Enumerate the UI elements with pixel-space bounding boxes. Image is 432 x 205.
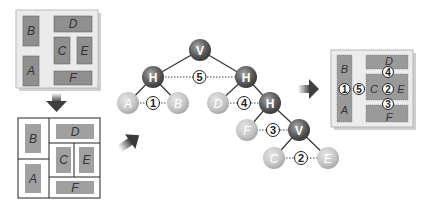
block-label: C (59, 153, 68, 167)
channel-marker-2: 2 (383, 84, 394, 95)
block-a: A (25, 164, 41, 193)
diagonal-arrow-icon (114, 128, 144, 157)
block-label: D (71, 125, 80, 139)
tree-node-f: F (236, 119, 258, 141)
block-e: E (77, 37, 92, 64)
tree-node-b: B (167, 92, 189, 114)
block-c: C (56, 147, 71, 173)
channel-number: 2 (298, 152, 304, 164)
tree-node-label: C (270, 152, 279, 166)
tree-node-label: D (214, 97, 223, 111)
tree-node-c: C (263, 147, 285, 169)
svg-text:5: 5 (356, 84, 362, 95)
tree-node-label: B (174, 97, 182, 111)
block-c: C (54, 37, 70, 64)
tree-node-label: F (243, 124, 251, 138)
block-label: E (82, 153, 91, 167)
right-arrow-icon (298, 79, 319, 99)
tree-node-label: V (196, 44, 204, 58)
block-label: B (27, 24, 35, 38)
block-a: A (23, 56, 39, 86)
tree-node-v1: V (189, 39, 211, 61)
block-e: E (79, 147, 94, 173)
partitioned-layout-panel: B A D C E F (18, 118, 100, 198)
down-arrow-icon (46, 93, 67, 112)
tree-node-e: E (317, 147, 339, 169)
channel-number: 1 (150, 97, 156, 109)
tree-node-label: A (123, 97, 132, 111)
block-d: D (56, 124, 94, 139)
svg-text:2: 2 (385, 84, 391, 95)
svg-text:4: 4 (385, 67, 391, 78)
block-label: C (58, 44, 67, 58)
block-label-e: E (397, 83, 405, 95)
tree-node-h1: H (142, 66, 164, 88)
channel-marker-5: 5 (354, 84, 365, 95)
tree-node-h2: H (235, 66, 257, 88)
svg-text:3: 3 (385, 99, 391, 110)
block-label-d: D (385, 55, 393, 67)
tree-node-h3: H (259, 92, 281, 114)
tree-node-label: E (324, 152, 333, 166)
tree-node-a: A (117, 92, 139, 114)
block-f: F (54, 71, 92, 85)
block-b: B (25, 124, 41, 153)
channel-marker-1: 1 (339, 84, 350, 95)
block-b: B (23, 16, 39, 46)
block-label: A (26, 64, 35, 78)
channel-link-5: 5 (153, 71, 246, 84)
block-label: D (69, 17, 78, 31)
tree-node-label: H (149, 71, 158, 85)
svg-text:1: 1 (342, 84, 348, 95)
block-label: B (29, 132, 37, 146)
block-label-b: B (341, 63, 348, 75)
channel-marker-3: 3 (383, 99, 394, 110)
channel-number: 3 (270, 124, 276, 136)
diagram-canvas: B A D C E F (0, 0, 432, 205)
tree-node-label: H (266, 97, 275, 111)
tree-node-v2: V (288, 119, 310, 141)
tree-node-label: V (295, 124, 303, 138)
block-label: A (28, 172, 37, 186)
block-label: F (71, 181, 79, 195)
block-label-c: C (370, 83, 378, 95)
tree-node-label: H (242, 71, 251, 85)
channel-layout-panel: B A D C E F 1 5 4 2 3 (331, 50, 416, 130)
block-label: F (69, 71, 77, 85)
block-f: F (56, 181, 94, 195)
channel-marker-4: 4 (383, 67, 394, 78)
channel-number: 4 (241, 97, 248, 109)
tree-node-d: D (207, 92, 229, 114)
original-layout-panel: B A D C E F (16, 10, 101, 91)
channel-number: 5 (196, 71, 202, 83)
block-label-a: A (340, 104, 348, 116)
block-d: D (54, 16, 92, 32)
block-label: E (80, 44, 89, 58)
